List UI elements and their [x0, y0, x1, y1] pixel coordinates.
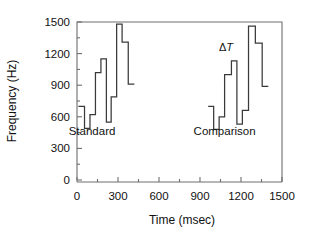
y-tick-label: 1200: [44, 48, 70, 60]
y-tick-label: 900: [51, 79, 70, 91]
x-tick-label: 300: [108, 190, 127, 202]
series-labels: StandardComparison: [69, 125, 256, 137]
series-path-standard: [78, 24, 134, 128]
y-tick-label: 300: [51, 142, 70, 154]
x-axis-ticks: [77, 177, 282, 182]
y-tick-label: 600: [51, 111, 70, 123]
x-tick-label: 0: [74, 190, 80, 202]
x-tick-label: 1500: [269, 190, 295, 202]
series-path-comparison: [208, 26, 268, 129]
y-axis-ticks: [77, 22, 82, 180]
series-paths: [78, 24, 268, 129]
chart-figure: 030060090012001500 030060090012001500 St…: [0, 0, 310, 235]
x-axis-title: Time (msec): [149, 213, 215, 227]
y-tick-label: 1500: [44, 16, 70, 28]
series-label-comparison: Comparison: [194, 125, 256, 137]
y-tick-label: 0: [64, 174, 70, 186]
x-tick-label: 900: [190, 190, 209, 202]
y-axis-tick-labels: 030060090012001500: [44, 16, 70, 186]
frequency-time-step-chart: 030060090012001500 030060090012001500 St…: [0, 0, 310, 235]
chart-annotations: ΔT: [219, 41, 234, 53]
plot-frame: [77, 22, 282, 182]
x-tick-label: 600: [149, 190, 168, 202]
delta-variable: T: [226, 41, 234, 53]
x-axis-tick-labels: 030060090012001500: [74, 190, 295, 202]
x-tick-label: 1200: [228, 190, 254, 202]
series-label-standard: Standard: [69, 125, 116, 137]
annotation-delta-t: ΔT: [219, 41, 234, 53]
y-axis-title: Frequency (Hz): [5, 60, 19, 143]
